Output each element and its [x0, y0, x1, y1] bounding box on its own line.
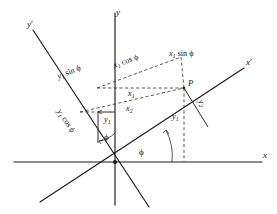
phi-angle-text-y: ϕ	[104, 132, 109, 142]
point-p-text: P	[188, 78, 193, 88]
y1-right-sub: 1	[176, 116, 179, 122]
x1-sub: 1	[132, 93, 135, 99]
phi-angle-label-y: ϕ	[104, 133, 109, 142]
phi-angle-arc-x	[166, 130, 172, 162]
y-prime-mark: ′	[31, 19, 33, 29]
x1-sin-phi-label: x1 sin ϕ	[169, 50, 194, 60]
x-axis-label-text: x	[263, 150, 267, 160]
x1-sin-phi-func: sin	[178, 49, 188, 58]
figure-canvas	[0, 0, 277, 214]
y-axis-label-text: y	[116, 7, 120, 17]
phi-angle-label-x: ϕ	[139, 148, 144, 157]
y-prime-axis-label: y′	[27, 20, 33, 29]
x1-sin-phi-arg: ϕ	[189, 49, 193, 58]
x-prime-mark: ′	[250, 57, 252, 67]
origin-point	[113, 160, 117, 164]
coordinate-rotation-figure: y x y′ x′ P x1 cos ϕ x1 sin ϕ y1 sin ϕ y…	[0, 0, 277, 214]
x1-component-label: x1	[128, 90, 135, 100]
y1-left-sub: 1	[108, 119, 111, 125]
phi-angle-arrowhead-x	[163, 130, 169, 134]
x2-sub: 2	[130, 108, 133, 114]
y1-left-component-label: y1	[104, 116, 111, 126]
point-p-label: P	[188, 79, 193, 88]
x-prime-axis-label: x′	[246, 58, 252, 67]
x1-sin-phi-dashed	[181, 57, 184, 88]
phi-angle-text-x: ϕ	[139, 147, 144, 157]
y1-right-component-label: y1	[172, 113, 179, 123]
x-axis-label: x	[263, 151, 267, 160]
point-p-marker	[183, 87, 186, 90]
x2-component-label: x2	[126, 105, 133, 115]
y-axis-label: y	[116, 8, 120, 17]
